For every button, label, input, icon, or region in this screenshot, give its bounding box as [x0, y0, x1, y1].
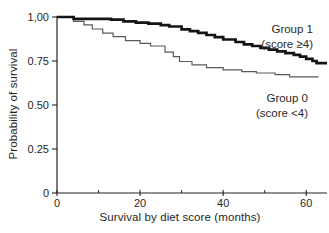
- x-tick-label: 20: [134, 197, 146, 209]
- x-tick-label: 40: [217, 197, 229, 209]
- x-axis-title: Survival by diet score (months): [30, 211, 329, 223]
- x-tick-label: 60: [300, 197, 312, 209]
- legend-group0-name: Group 0: [256, 91, 308, 106]
- legend-group1: Group 1 (score ≥4): [261, 22, 313, 52]
- x-tick-label: 0: [54, 197, 60, 209]
- survival-figure: 1,000.750.500.2500204060 Probability of …: [0, 0, 329, 233]
- y-tick-label: 0.25: [28, 143, 49, 155]
- legend-group0: Group 0 (score <4): [256, 91, 308, 121]
- legend-group1-score: (score ≥4): [261, 37, 313, 52]
- y-tick-label: 1,00: [28, 11, 49, 23]
- y-tick-label: 0: [43, 187, 49, 199]
- legend-group0-score: (score <4): [256, 106, 308, 121]
- y-tick-label: 0.75: [28, 55, 49, 67]
- legend-group1-name: Group 1: [261, 22, 313, 37]
- y-tick-label: 0.50: [28, 99, 49, 111]
- y-axis-title: Probability of survival: [7, 24, 19, 184]
